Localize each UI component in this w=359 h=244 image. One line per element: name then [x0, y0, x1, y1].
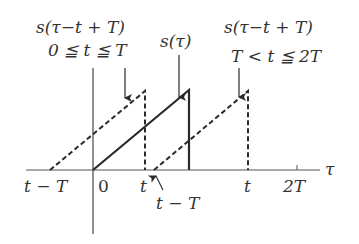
dashed-sawtooth-right	[154, 91, 248, 170]
label-right-top-line2: T < t ≦ 2T	[231, 46, 323, 66]
label-t-minus-T-left: t − T	[24, 176, 69, 196]
label-t-right: t	[244, 176, 251, 196]
label-2T: 2T	[282, 176, 307, 196]
signal-diagram: s(τ−t + T) 0 ≦ t ≦ T s(τ) s(τ−t + T) T <…	[0, 0, 359, 244]
label-zero: 0	[98, 176, 109, 196]
label-left-top-line2: 0 ≦ t ≦ T	[48, 40, 128, 60]
label-tau-axis: τ	[325, 159, 335, 179]
label-right-top-line1: s(τ−t + T)	[224, 17, 313, 37]
arrow-t-minus-T	[156, 176, 163, 190]
label-middle-top: s(τ)	[160, 31, 191, 51]
label-t-left: t	[140, 176, 147, 196]
dashed-sawtooth-left	[50, 91, 145, 170]
label-t-minus-T-right: t − T	[156, 193, 201, 213]
label-left-top-line1: s(τ−t + T)	[36, 17, 125, 37]
solid-sawtooth-s-tau	[93, 90, 189, 170]
